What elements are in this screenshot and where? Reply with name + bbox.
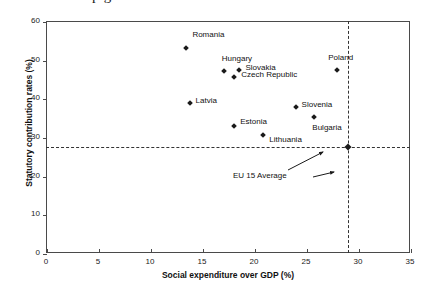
data-point-label: Czech Republic bbox=[241, 70, 297, 79]
data-point-label: Lithuania bbox=[269, 135, 301, 144]
x-tick-mark bbox=[203, 249, 204, 253]
x-tick-mark bbox=[307, 249, 308, 253]
y-axis-title: Statutory contribution rates (%) bbox=[24, 28, 34, 218]
x-tick-mark bbox=[47, 249, 48, 253]
y-tick-mark bbox=[43, 177, 47, 178]
x-tick-label: 0 bbox=[31, 257, 61, 266]
y-tick-label: 60 bbox=[14, 16, 40, 25]
x-tick-label: 15 bbox=[187, 257, 217, 266]
cropped-title-text: p g bbox=[0, 0, 427, 3]
y-tick-mark bbox=[43, 215, 47, 216]
data-point-label: Hungary bbox=[222, 54, 252, 63]
data-point-label: Slovenia bbox=[302, 100, 333, 109]
x-axis-title: Social expenditure over GDP (%) bbox=[46, 270, 410, 280]
data-point-label: Poland bbox=[328, 53, 353, 62]
cropped-title: p g bbox=[0, 0, 427, 3]
y-tick-mark bbox=[43, 254, 47, 255]
y-tick-mark bbox=[43, 99, 47, 100]
x-tick-mark bbox=[151, 249, 152, 253]
x-tick-mark bbox=[411, 249, 412, 253]
data-point-label: Bulgaria bbox=[312, 123, 341, 132]
x-tick-mark bbox=[99, 249, 100, 253]
x-tick-label: 35 bbox=[395, 257, 425, 266]
x-tick-label: 5 bbox=[83, 257, 113, 266]
x-tick-label: 20 bbox=[239, 257, 269, 266]
y-tick-label: 0 bbox=[14, 248, 40, 257]
x-tick-mark bbox=[359, 249, 360, 253]
x-tick-label: 30 bbox=[343, 257, 373, 266]
y-tick-mark bbox=[43, 61, 47, 62]
y-tick-mark bbox=[43, 22, 47, 23]
y-tick-mark bbox=[43, 138, 47, 139]
chart-figure: p g 051015202530350102030405060 RomaniaH… bbox=[0, 0, 427, 293]
x-tick-mark bbox=[255, 249, 256, 253]
eu15-average-horizontal-line bbox=[46, 147, 410, 148]
data-point-label: Romania bbox=[192, 30, 224, 39]
x-tick-label: 25 bbox=[291, 257, 321, 266]
data-point-label: Estonia bbox=[240, 117, 267, 126]
data-point-label: Latvia bbox=[196, 96, 217, 105]
eu15-average-annotation: EU 15 Average bbox=[233, 171, 287, 180]
x-tick-label: 10 bbox=[135, 257, 165, 266]
